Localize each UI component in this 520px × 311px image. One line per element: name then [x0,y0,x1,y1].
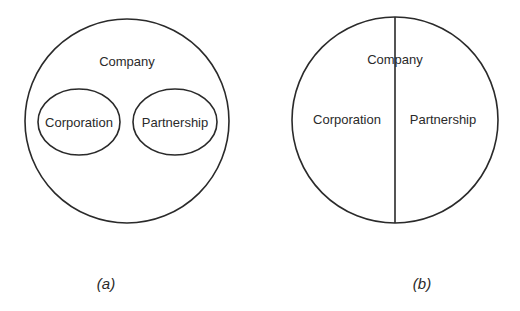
corporation-label-b: Corporation [313,112,381,127]
company-label-b: Company [367,52,423,67]
partnership-label-a: Partnership [142,115,208,130]
caption-a: (a) [97,275,115,292]
diagram-canvas: Company Corporation Partnership (a) Comp… [0,0,520,311]
partnership-label-b: Partnership [410,112,476,127]
corporation-label-a: Corporation [45,115,113,130]
diagram-a: Company Corporation Partnership (a) [25,19,229,292]
company-label-a: Company [99,54,155,69]
caption-b: (b) [413,275,431,292]
diagram-b: Company Corporation Partnership (b) [292,17,498,292]
